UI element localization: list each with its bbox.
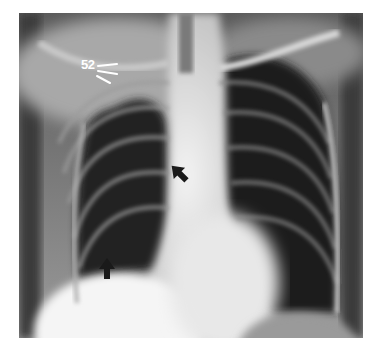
xray-rendering <box>19 13 363 338</box>
chest-xray-image <box>19 13 363 338</box>
rib-number-label: 52 <box>81 57 94 72</box>
